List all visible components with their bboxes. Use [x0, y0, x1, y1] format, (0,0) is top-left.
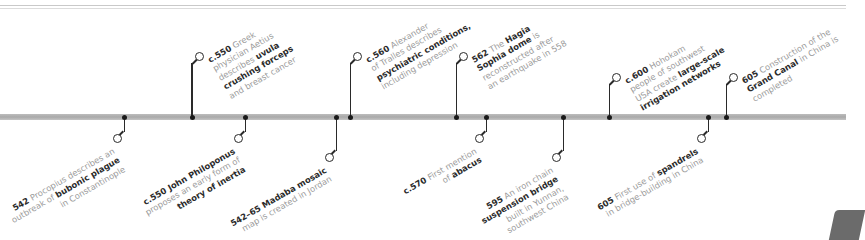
- timeline-marker: [706, 115, 711, 120]
- connector-stem: [456, 63, 458, 117]
- event-marker-icon: [113, 134, 122, 143]
- event-label: 605 Construction of the Grand Canal in C…: [740, 25, 846, 104]
- connector-stem: [191, 63, 193, 117]
- event-marker-icon: [612, 73, 621, 82]
- timeline-marker: [348, 115, 353, 120]
- event-label: c.570 First mention of abacus: [401, 146, 484, 206]
- timeline-marker: [454, 115, 459, 120]
- connector-stem: [726, 84, 728, 117]
- event-label: 542 Procopius describes an outbreak of b…: [4, 146, 126, 235]
- connector-stem: [350, 63, 352, 117]
- event-marker-icon: [195, 52, 204, 61]
- timeline-marker: [484, 115, 489, 120]
- event-label: 605 First use of spandrels in bridge-bui…: [595, 146, 705, 221]
- event-label: c.600 Hohokam people of southwest USA cr…: [623, 26, 731, 113]
- timeline-marker: [724, 115, 729, 120]
- timeline-bar: [0, 114, 846, 120]
- timeline-marker: [190, 115, 195, 120]
- event-label: 542–65 Madaba mosaic map is created in J…: [228, 165, 333, 238]
- event-marker-icon: [325, 153, 334, 162]
- event-marker-icon: [697, 134, 706, 143]
- event-label: c.550 John Philoponus proposes an early …: [139, 146, 248, 227]
- connector-stem: [336, 117, 338, 151]
- page-tab-corner: [829, 210, 865, 240]
- connector-stem: [609, 84, 611, 117]
- event-marker-icon: [234, 134, 243, 143]
- event-marker-icon: [459, 52, 468, 61]
- event-marker-icon: [353, 52, 362, 61]
- timeline-marker: [334, 115, 339, 120]
- event-label: 595 An iron chain suspension bridge buil…: [475, 165, 571, 240]
- event-marker-icon: [552, 153, 561, 162]
- connector-stem: [563, 117, 565, 151]
- event-label: 562 The Hagia Sophia dome is reconstruct…: [470, 11, 569, 92]
- timeline-marker: [607, 115, 612, 120]
- event-marker-icon: [475, 134, 484, 143]
- timeline-marker: [243, 115, 248, 120]
- event-label: c.560 Alexander of Tralles describes psy…: [364, 2, 478, 92]
- timeline-marker: [122, 115, 127, 120]
- timeline-marker: [561, 115, 566, 120]
- top-rule-inner: [0, 8, 846, 9]
- event-marker-icon: [729, 73, 738, 82]
- event-label: c.550 Greek physician Aetius describes u…: [206, 17, 300, 102]
- top-rule: [0, 5, 846, 6]
